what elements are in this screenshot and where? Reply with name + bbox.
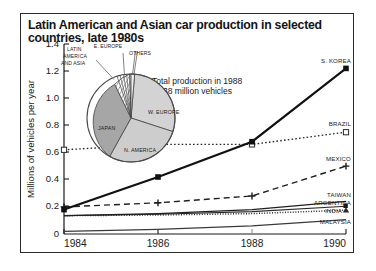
series-markers-mexico [61, 163, 350, 211]
x-axis-ticks: 1984 1986 1988 1990 [64, 229, 346, 249]
chart-figure: Latin American and Asian car production … [0, 0, 376, 271]
annotation-line-2: 38 million vehicles [163, 86, 232, 96]
series-marker-brazil [343, 130, 348, 135]
x-tick-label: 1990 [323, 238, 346, 249]
annotation-line-1: Total production in 1988 [152, 76, 243, 86]
y-tick-label: 1.4 [46, 38, 60, 49]
y-tick-label: 1.2 [46, 65, 59, 76]
series-marker-mexico [249, 193, 256, 200]
pie-chart: W. EUROPE N. AMERICA JAPAN E. EUROPE OTH… [61, 43, 180, 162]
pie-label-n-america: N. AMERICA [124, 147, 156, 153]
series-marker-brazil [61, 147, 66, 152]
series-label-india: INDIA [325, 207, 343, 214]
series-marker-s-korea [61, 207, 67, 213]
series-label-brazil: BRAZIL [329, 120, 352, 127]
series-label-taiwan: TAIWAN [327, 191, 351, 198]
x-tick-label: 1984 [64, 238, 87, 249]
pie-label-w-europe: W. EUROPE [148, 109, 180, 115]
pie-label-japan: JAPAN [98, 125, 115, 131]
y-tick-label: 0 [54, 228, 59, 239]
pie-label-others: OTHERS [129, 50, 151, 56]
y-tick-label: 0.4 [46, 173, 60, 184]
series-line-mexico [64, 166, 346, 207]
series-line-malaysia [64, 220, 346, 232]
y-tick-label: 1.0 [46, 92, 59, 103]
chart-svg: 1.4 1.2 1.0 0.8 0.6 0.4 0.2 0 Millions o… [20, 13, 354, 253]
series-labels: S. KOREA BRAZIL MEXICO TAIWAN ARGENTINA … [314, 57, 352, 225]
pie-label-e-europe: E. EUROPE [94, 43, 123, 49]
series-label-malaysia: MALAYSIA [320, 218, 352, 225]
series-label-s-korea: S. KOREA [321, 57, 352, 64]
series-label-mexico: MEXICO [326, 155, 351, 162]
series-marker-mexico [343, 163, 350, 170]
series-marker-s-korea [155, 174, 161, 180]
series-marker-s-korea [249, 139, 255, 145]
y-tick-label: 0.2 [46, 200, 59, 211]
series-malaysia [64, 220, 346, 232]
y-tick-label: 0.8 [46, 119, 59, 130]
series-marker-mexico [155, 199, 162, 206]
x-tick-label: 1986 [147, 238, 170, 249]
pie-label-latin-america-line1: LATIN [67, 46, 82, 52]
pie-label-latin-america-line3: AND ASIA [61, 60, 86, 66]
series-marker-s-korea [343, 66, 349, 72]
y-axis-label: Millions of vehicles per year [25, 79, 36, 198]
chart-canvas: 1.4 1.2 1.0 0.8 0.6 0.4 0.2 0 Millions o… [20, 13, 354, 253]
y-tick-label: 0.6 [46, 146, 59, 157]
x-tick-label: 1988 [241, 238, 264, 249]
series-label-argentina: ARGENTINA [314, 199, 352, 206]
series-mexico [61, 163, 350, 211]
pie-label-latin-america-line2: AMERICA [63, 53, 87, 59]
